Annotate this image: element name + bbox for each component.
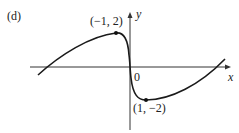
origin-label: 0: [134, 71, 140, 83]
panel-label: (d): [7, 10, 21, 22]
y-axis-arrow-icon: [128, 12, 133, 18]
max-point-label: (−1, 2): [90, 15, 123, 27]
x-axis-label: x: [228, 71, 233, 83]
max-point-marker: [114, 31, 118, 35]
x-axis-arrow-icon: [225, 65, 231, 70]
function-curve: [38, 33, 225, 100]
y-axis-label: y: [136, 8, 141, 20]
min-point-label: (1, −2): [133, 102, 166, 114]
